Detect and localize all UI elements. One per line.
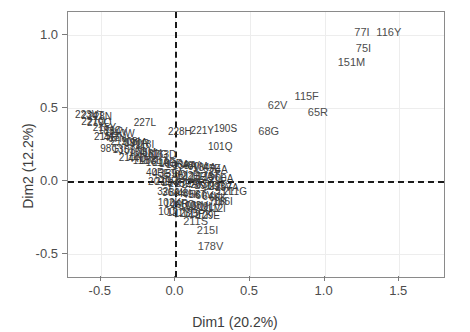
data-point-label: 62V bbox=[268, 100, 288, 111]
reference-line-vertical bbox=[175, 12, 177, 277]
gridline-horizontal bbox=[68, 254, 444, 255]
data-point-label: 77I bbox=[354, 27, 369, 38]
data-point-label: 101Q bbox=[208, 142, 232, 152]
x-axis-tick bbox=[324, 276, 325, 281]
gridline-vertical bbox=[399, 12, 400, 277]
y-axis-tick bbox=[62, 180, 67, 181]
gridline-vertical bbox=[250, 12, 251, 277]
data-point-label: 227L bbox=[134, 118, 156, 128]
y-axis-tick-label: 0.5 bbox=[40, 100, 58, 115]
y-axis-tick-label: 1.0 bbox=[40, 27, 58, 42]
pca-factor-map-figure: 77I116Y75I151M115F62V65R68G190S227L221Y2… bbox=[0, 0, 470, 332]
x-axis-tick-label: 1.0 bbox=[315, 283, 333, 298]
x-axis-tick-label: -0.5 bbox=[89, 283, 111, 298]
data-point-label: 228H bbox=[168, 127, 192, 137]
x-axis-label: Dim1 (20.2%) bbox=[0, 314, 470, 330]
data-point-label: 129E bbox=[197, 211, 220, 221]
data-point-label: 116Y bbox=[376, 27, 401, 38]
x-axis-tick bbox=[398, 276, 399, 281]
y-axis-label: Dim2 (12.2%) bbox=[20, 86, 36, 246]
gridline-vertical bbox=[325, 12, 326, 277]
y-axis-tick bbox=[62, 253, 67, 254]
data-point-label: 75I bbox=[356, 43, 371, 54]
x-axis-tick bbox=[100, 276, 101, 281]
data-point-label: 190S bbox=[214, 124, 237, 134]
data-point-label: 65R bbox=[308, 106, 328, 117]
data-point-label: 215I bbox=[197, 224, 218, 235]
x-axis-tick-label: 0.0 bbox=[165, 283, 183, 298]
data-point-label: 68G bbox=[258, 125, 279, 136]
x-axis-tick-label: 1.5 bbox=[389, 283, 407, 298]
x-axis-tick bbox=[174, 276, 175, 281]
data-point-label: 221Y bbox=[191, 126, 214, 136]
y-axis-tick bbox=[62, 34, 67, 35]
y-axis-tick-label: -0.5 bbox=[36, 245, 58, 260]
plot-panel: 77I116Y75I151M115F62V65R68G190S227L221Y2… bbox=[67, 11, 445, 278]
y-axis-tick bbox=[62, 107, 67, 108]
x-axis-tick bbox=[249, 276, 250, 281]
gridline-horizontal bbox=[68, 108, 444, 109]
reference-line-horizontal bbox=[68, 181, 444, 183]
data-point-label: 115F bbox=[295, 90, 319, 101]
y-axis-tick-label: 0.0 bbox=[40, 172, 58, 187]
data-point-label: 151M bbox=[338, 56, 366, 67]
data-point-label: 178V bbox=[198, 240, 224, 251]
x-axis-tick-label: 0.5 bbox=[240, 283, 258, 298]
